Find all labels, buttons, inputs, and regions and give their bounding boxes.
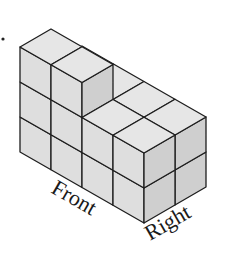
cube-structure: Front Right [0,0,225,257]
marker-dot [1,37,4,40]
figure: Front Right [0,0,225,257]
